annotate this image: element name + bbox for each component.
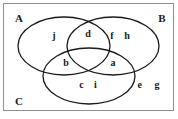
ellipse-set-c [43,48,135,104]
region-a-and-b-elements: d [85,29,91,39]
venn-ellipses-canvas [0,0,178,119]
venn-diagram-figure: A B C j f h c i d b a e g [0,0,178,119]
region-c-only-elements: c i [79,80,101,90]
set-label-b: B [158,13,166,24]
region-outside-elements: e g [138,80,165,90]
region-a-and-c-elements: b [63,58,69,68]
region-a-only-elements: j [52,31,55,41]
set-label-a: A [15,13,23,24]
set-label-c: C [15,96,23,107]
region-b-only-elements: f h [110,31,133,41]
region-b-and-c-elements: a [111,58,116,68]
